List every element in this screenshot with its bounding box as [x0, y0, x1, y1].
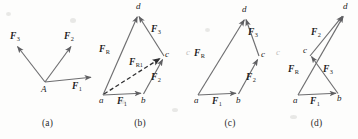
label-F3-b: F3	[151, 25, 161, 35]
label-FR1-b: FR1	[129, 58, 143, 68]
point-label-b-b: b	[141, 96, 146, 105]
point-label-d-c: d	[242, 5, 247, 14]
label-F2-b: F2	[151, 73, 161, 83]
label-F3-c: F3	[248, 28, 258, 38]
point-label-c-d: c	[303, 46, 307, 55]
caption-c: (c)	[185, 118, 275, 128]
label-F2-c: F2	[246, 73, 256, 83]
label-F2-a: F2	[64, 32, 74, 42]
panel-d: c a b c d F1 F2 F3 FR (d)	[275, 0, 358, 139]
label-F2-d: F2	[311, 28, 321, 38]
label-F1-c: F1	[212, 97, 222, 107]
point-label-a-c: a	[194, 96, 199, 105]
figure-root: F1 F2 F3 A (a) a b c d F1 F2 F3 FR FR1 (…	[0, 0, 358, 139]
scan-ghost-c-right: c	[276, 48, 280, 57]
point-label-b-d: b	[337, 94, 342, 103]
label-FR-d: FR	[288, 65, 299, 75]
point-label-c-c: c	[261, 50, 265, 59]
panel-c: c a b c d F1 F2 F3 FR (c)	[185, 0, 275, 139]
point-label-a-b: a	[99, 96, 104, 105]
point-label-d-d: d	[343, 2, 348, 11]
caption-b: (b)	[95, 118, 185, 128]
point-label-a-d: a	[293, 96, 298, 105]
scan-ghost-c-left: c	[186, 48, 190, 57]
point-label-d-b: d	[136, 2, 141, 11]
label-F1-d: F1	[310, 97, 320, 107]
point-label-A: A	[41, 85, 47, 94]
caption-a: (a)	[0, 118, 95, 128]
panel-a: F1 F2 F3 A (a)	[0, 0, 95, 139]
point-label-c-b: c	[165, 50, 169, 59]
point-label-b-c: b	[236, 96, 241, 105]
label-FR-c: FR	[194, 49, 205, 59]
label-F1-a: F1	[72, 82, 82, 92]
label-FR-b: FR	[99, 45, 110, 55]
caption-d: (d)	[275, 118, 358, 128]
label-F3-a: F3	[10, 32, 20, 42]
label-F3-d: F3	[323, 65, 333, 75]
label-F1-b: F1	[117, 97, 127, 107]
panel-b: a b c d F1 F2 F3 FR FR1 (b)	[95, 0, 185, 139]
